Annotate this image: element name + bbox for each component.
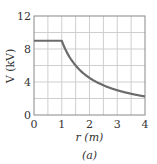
y-tick-label: 8: [24, 43, 31, 56]
x-tick-label: 4: [142, 118, 149, 131]
x-axis-label: r (m): [76, 131, 104, 144]
y-tick-labels: 04812: [17, 10, 31, 122]
y-axis-label: V (kV): [4, 49, 17, 85]
x-tick-label: 3: [114, 118, 121, 131]
y-tick-label: 4: [24, 76, 31, 89]
grid: [34, 16, 145, 115]
x-tick-label: 2: [86, 118, 93, 131]
y-tick-label: 12: [17, 10, 31, 23]
x-tick-label: 0: [31, 118, 38, 131]
chart: 04812 01234 r (m) V (kV) (a): [0, 0, 157, 164]
figure-caption: (a): [82, 149, 97, 162]
x-tick-label: 1: [58, 118, 65, 131]
x-tick-labels: 01234: [31, 118, 149, 131]
